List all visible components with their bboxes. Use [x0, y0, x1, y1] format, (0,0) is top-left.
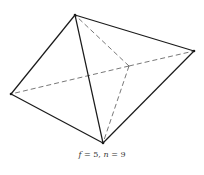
caption-eq-n: = 9: [109, 150, 126, 159]
vertex-left: [10, 93, 13, 96]
vertex-bottom: [102, 142, 105, 145]
vertex-right: [193, 50, 196, 53]
edge-right-bottom: [103, 51, 194, 143]
hidden-edge-bottom: [103, 66, 129, 143]
visible-edges: [11, 15, 194, 143]
edge-left-bottom: [11, 94, 103, 143]
hidden-edge-left: [11, 66, 129, 94]
edge-top-bottom: [75, 15, 103, 143]
hidden-edge-right: [129, 51, 194, 66]
caption-eq-f: = 5,: [81, 150, 103, 159]
figure-caption: f = 5, n = 9: [0, 150, 204, 159]
vertex-top: [74, 14, 77, 17]
polyhedron-diagram: [0, 0, 204, 175]
edge-top-right: [75, 15, 194, 51]
vertices: [10, 14, 196, 145]
edge-top-left: [11, 15, 75, 94]
